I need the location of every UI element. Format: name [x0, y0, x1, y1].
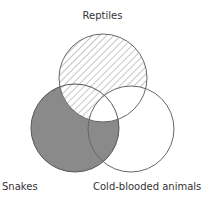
venn-diagram [0, 0, 203, 199]
label-reptiles: Reptiles [0, 10, 203, 22]
label-snakes: Snakes [2, 181, 38, 193]
label-cold-blooded-animals: Cold-blooded animals [93, 181, 201, 193]
